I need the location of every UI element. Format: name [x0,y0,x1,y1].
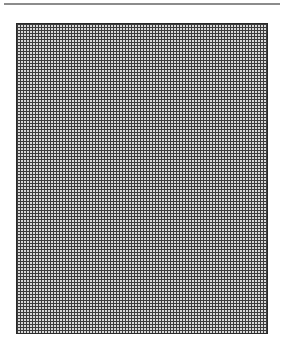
grid-pattern-panel [16,23,268,334]
top-divider [4,3,280,5]
